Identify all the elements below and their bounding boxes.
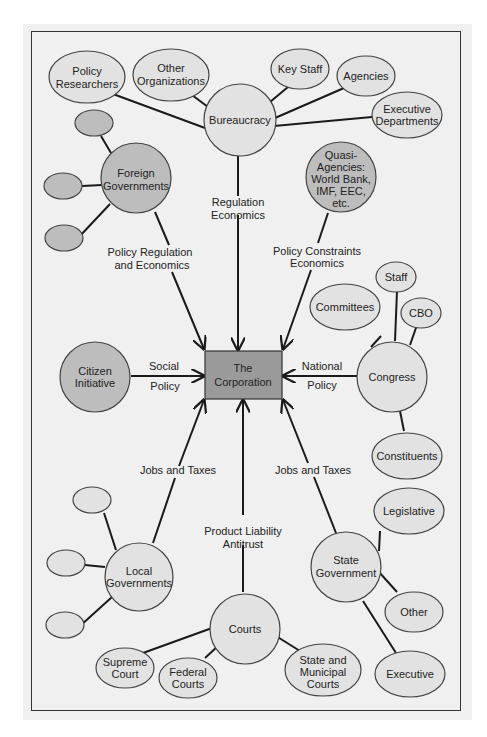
svg-text:Economics: Economics [211,209,265,221]
svg-text:Local: Local [126,565,152,577]
the-corporation-node: The Corporation [205,351,282,399]
svg-text:Federal: Federal [169,666,206,678]
svg-text:Policy Regulation: Policy Regulation [108,246,193,258]
stakeholder-diagram: The Corporation Bureaucracy Regulation E… [0,0,487,737]
local-governments-node: Local Governments [105,543,173,611]
svg-text:Regulation: Regulation [212,196,265,208]
local-edge-label: Jobs and Taxes [140,464,217,476]
svg-text:Policy: Policy [307,379,337,391]
svg-text:Corporation: Corporation [214,376,271,388]
svg-text:Staff: Staff [385,271,408,283]
svg-text:Committees: Committees [316,301,375,313]
agencies-node: Agencies [337,56,395,96]
svg-text:Constituents: Constituents [376,450,438,462]
svg-text:Policy Constraints: Policy Constraints [273,245,362,257]
svg-text:Government: Government [316,567,377,579]
svg-text:Executive: Executive [383,103,431,115]
federal-courts-node: Federal Courts [159,658,217,698]
svg-text:Municipal: Municipal [300,666,346,678]
svg-text:Economics: Economics [290,257,344,269]
congress-node: Congress [357,342,427,412]
svg-text:Agencies:: Agencies: [317,161,365,173]
bureaucracy-node: Bureaucracy [204,84,276,156]
constituents-node: Constituents [372,433,442,479]
foreign-satellite-node [44,173,82,199]
svg-text:Social: Social [149,360,179,372]
foreign-satellite-node [45,225,83,251]
svg-text:Foreign: Foreign [117,167,154,179]
svg-text:Researchers: Researchers [56,78,119,90]
svg-text:CBO: CBO [409,307,433,319]
svg-text:etc.: etc. [332,197,350,209]
svg-text:State and: State and [299,654,346,666]
svg-text:Courts: Courts [229,623,262,635]
committees-node: Committees [310,284,380,330]
svg-text:Supreme: Supreme [103,656,148,668]
state-government-node: State Government [311,532,381,602]
svg-text:Antitrust: Antitrust [223,538,263,550]
svg-text:Agencies: Agencies [343,70,389,82]
foreign-edge-label: Policy Regulation and Economics [108,246,193,271]
state-executive-node: Executive [375,651,445,697]
svg-text:Quasi-: Quasi- [325,149,358,161]
state-edge-label: Jobs and Taxes [275,464,352,476]
svg-text:World Bank,: World Bank, [311,173,371,185]
svg-text:Legislative: Legislative [383,505,435,517]
svg-text:Executive: Executive [386,668,434,680]
svg-text:Departments: Departments [376,115,439,127]
svg-text:Jobs and Taxes: Jobs and Taxes [140,464,217,476]
executive-departments-node: Executive Departments [372,92,442,138]
svg-text:National: National [302,360,342,372]
svg-text:Courts: Courts [172,678,205,690]
svg-text:Court: Court [112,668,139,680]
svg-text:Organizations: Organizations [137,75,205,87]
svg-text:and Economics: and Economics [114,259,190,271]
cbo-node: CBO [401,298,441,328]
svg-text:Citizen: Citizen [78,365,112,377]
svg-text:Initiative: Initiative [75,377,115,389]
svg-text:The: The [234,362,253,374]
svg-text:Policy: Policy [150,380,180,392]
policy-researchers-node: Policy Researchers [49,51,125,103]
foreign-satellite-node [75,110,113,136]
citizen-initiative-node: Citizen Initiative [60,342,130,412]
staff-node: Staff [376,262,416,292]
local-satellite-node [46,612,84,638]
foreign-governments-node: Foreign Governments [101,143,171,213]
svg-text:Governments: Governments [106,577,173,589]
svg-text:Other: Other [157,62,185,74]
state-municipal-courts-node: State and Municipal Courts [285,644,361,696]
other-organizations-node: Other Organizations [133,49,209,101]
svg-text:Policy: Policy [72,65,102,77]
svg-text:Other: Other [400,606,428,618]
state-other-node: Other [385,592,443,632]
local-satellite-node [73,487,111,513]
svg-text:Congress: Congress [368,371,416,383]
svg-text:Bureaucracy: Bureaucracy [209,114,271,126]
supreme-court-node: Supreme Court [96,648,154,688]
svg-text:State: State [333,554,359,566]
courts-edge-label: Product Liability Antitrust [204,525,282,550]
bureaucracy-edge-label: Regulation Economics [211,196,265,221]
svg-text:Product Liability: Product Liability [204,525,282,537]
quasi-agencies-node: Quasi- Agencies: World Bank, IMF, EEC, e… [306,142,376,212]
svg-text:Jobs and Taxes: Jobs and Taxes [275,464,352,476]
svg-text:Governments: Governments [103,180,170,192]
svg-text:IMF, EEC,: IMF, EEC, [316,185,366,197]
legislative-node: Legislative [374,488,444,534]
courts-node: Courts [210,594,280,664]
svg-text:Key Staff: Key Staff [278,63,323,75]
key-staff-node: Key Staff [271,49,329,89]
svg-text:Courts: Courts [307,678,340,690]
local-satellite-node [47,550,85,576]
quasi-edge-label: Policy Constraints Economics [273,245,362,269]
